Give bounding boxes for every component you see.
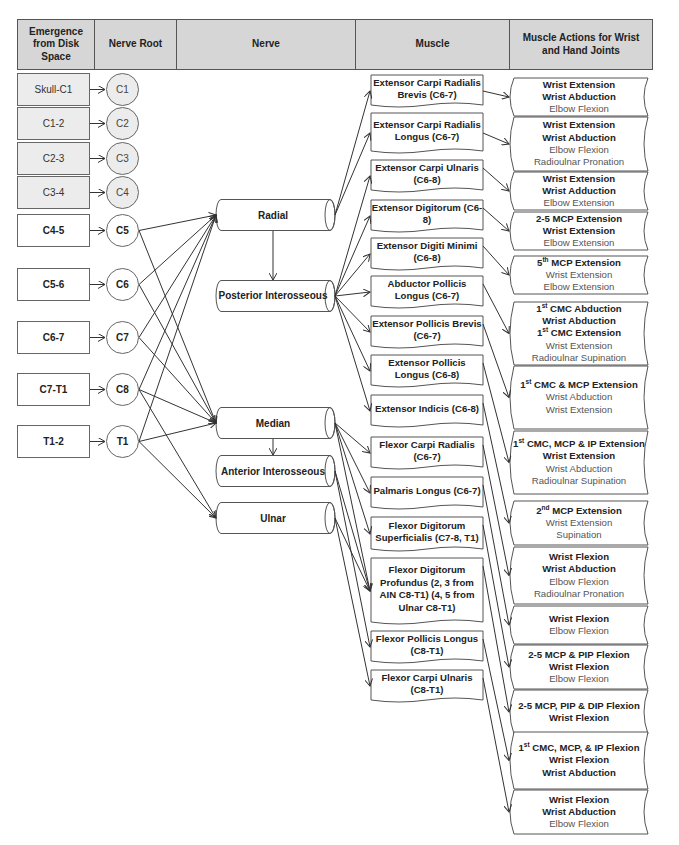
action-line: Wrist Extension bbox=[543, 119, 615, 131]
action-line: Wrist Extension bbox=[543, 79, 615, 91]
action-line: Wrist Extension bbox=[546, 340, 612, 352]
muscle-action-box: Wrist FlexionWrist AbductionElbow Flexio… bbox=[510, 790, 648, 834]
muscle-action-box: 5th MCP ExtensionWrist ExtensionElbow Ex… bbox=[510, 256, 648, 294]
nerve-root-circle: C1 bbox=[106, 73, 139, 106]
action-line: Elbow Flexion bbox=[549, 818, 609, 830]
muscle-box: Flexor Carpi Radialis (C6-7) bbox=[371, 437, 483, 469]
nerve-root-circle: C8 bbox=[106, 373, 139, 406]
segment-box: C2-3 bbox=[17, 142, 90, 175]
nerve-muscle-diagram: Emergence from Disk Space Nerve Root Ner… bbox=[0, 0, 679, 845]
action-line: Wrist Abduction bbox=[542, 767, 616, 779]
nerve-posterior-interosseous: Posterior Interosseous bbox=[216, 280, 330, 311]
action-line: Wrist Flexion bbox=[549, 794, 609, 806]
nerve-root-circle: C5 bbox=[106, 214, 139, 247]
muscle-box: Extensor Pollicis Brevis (C6-7) bbox=[371, 316, 483, 348]
muscle-box: Flexor Pollicis Longus (C8-T1) bbox=[371, 631, 483, 663]
muscle-box: Extensor Carpi Ulnaris (C6-8) bbox=[371, 160, 483, 192]
muscle-box: Flexor Digitorum Superficialis (C7-8, T1… bbox=[371, 517, 483, 551]
muscle-box: Extensor Digiti Minimi (C6-8) bbox=[371, 238, 483, 270]
muscle-box: Extensor Digitorum (C6-8) bbox=[371, 200, 483, 232]
action-line: Wrist Abduction bbox=[546, 391, 612, 403]
muscle-box: Extensor Carpi Radialis Longus (C6-7) bbox=[371, 113, 483, 153]
nerve-root-circle: T1 bbox=[106, 425, 139, 458]
action-line: Elbow Flexion bbox=[549, 103, 609, 115]
header-muscle-actions: Muscle Actions for Wrist and Hand Joints bbox=[509, 19, 653, 70]
nerve-root-circle: C3 bbox=[106, 142, 139, 175]
action-line: Elbow Extension bbox=[544, 197, 615, 209]
action-line: Radioulnar Supination bbox=[532, 475, 626, 487]
muscle-action-box: 1st CMC & MCP ExtensionWrist AbductionWr… bbox=[510, 366, 648, 429]
action-line: Elbow Extension bbox=[544, 281, 615, 293]
segment-box: C3-4 bbox=[17, 176, 90, 209]
action-line: Wrist Extension bbox=[546, 269, 612, 281]
action-line: Wrist Abduction bbox=[542, 806, 616, 818]
header-emergence: Emergence from Disk Space bbox=[17, 19, 95, 70]
muscle-action-box: 1st CMC, MCP, & IP FlexionWrist FlexionW… bbox=[510, 732, 648, 789]
muscle-box: Abductor Pollicis Longus (C6-7) bbox=[371, 276, 483, 308]
action-line: Wrist Flexion bbox=[549, 613, 609, 625]
muscle-action-box: Wrist FlexionElbow Flexion bbox=[510, 606, 648, 644]
segment-box: C7-T1 bbox=[17, 373, 90, 406]
action-line: 2-5 MCP & PIP Flexion bbox=[528, 649, 629, 661]
segment-box: T1-2 bbox=[17, 425, 90, 458]
action-line: Wrist Flexion bbox=[549, 712, 609, 724]
muscle-box: Extensor Pollicis Longus (C6-8) bbox=[371, 355, 483, 387]
nerve-median: Median bbox=[216, 408, 330, 439]
action-line: Wrist Flexion bbox=[549, 754, 609, 766]
muscle-box: Extensor Carpi Radialis Brevis (C6-7) bbox=[371, 75, 483, 107]
action-line: Wrist Adduction bbox=[542, 185, 616, 197]
muscle-box: Flexor Carpi Ulnaris (C8-T1) bbox=[371, 670, 483, 702]
nerve-anterior-interosseous: Anterior Interosseous bbox=[216, 456, 330, 487]
segment-box: C1-2 bbox=[17, 107, 90, 140]
muscle-box: Flexor Digitorum Profundus (2, 3 from AI… bbox=[371, 558, 483, 624]
action-line: Wrist Extension bbox=[543, 450, 615, 462]
nerve-root-circle: C6 bbox=[106, 268, 139, 301]
action-line: Elbow Extension bbox=[544, 237, 615, 249]
action-line: Wrist Abduction bbox=[542, 132, 616, 144]
action-line: Elbow Flexion bbox=[549, 576, 609, 588]
action-line: Wrist Extension bbox=[546, 517, 612, 529]
action-line: Wrist Flexion bbox=[549, 661, 609, 673]
muscle-action-box: 2-5 MCP & PIP FlexionWrist FlexionElbow … bbox=[510, 645, 648, 689]
muscle-box: Extensor Indicis (C6-8) bbox=[371, 395, 483, 427]
action-line: Supination bbox=[556, 529, 601, 541]
action-line: 1st CMC & MCP Extension bbox=[520, 379, 638, 391]
action-line: Radioulnar Pronation bbox=[534, 156, 624, 168]
nerve-radial: Radial bbox=[216, 200, 330, 231]
header-nerve-root: Nerve Root bbox=[94, 19, 177, 70]
header-nerve: Nerve bbox=[176, 19, 356, 70]
action-line: Elbow Flexion bbox=[549, 673, 609, 685]
action-line: 1st CMC, MCP & IP Extension bbox=[513, 438, 645, 450]
action-line: Wrist Abduction bbox=[542, 91, 616, 103]
action-line: Elbow Flexion bbox=[549, 625, 609, 637]
action-line: Wrist Abduction bbox=[542, 315, 616, 327]
action-line: 2-5 MCP, PIP & DIP Flexion bbox=[518, 700, 640, 712]
muscle-action-box: Wrist ExtensionWrist AbductionElbow Flex… bbox=[510, 117, 648, 171]
action-line: Wrist Extension bbox=[546, 404, 612, 416]
muscle-action-box: 1st CMC AbductionWrist Abduction1st CMC … bbox=[510, 302, 648, 365]
muscle-action-box: 2nd MCP ExtensionWrist ExtensionSupinati… bbox=[510, 501, 648, 545]
action-line: Elbow Flexion bbox=[549, 144, 609, 156]
action-line: Wrist Extension bbox=[543, 173, 615, 185]
action-line: Wrist Flexion bbox=[549, 551, 609, 563]
segment-box: Skull-C1 bbox=[17, 73, 90, 106]
muscle-action-box: Wrist ExtensionWrist AdductionElbow Exte… bbox=[510, 172, 648, 210]
action-line: Wrist Abduction bbox=[542, 563, 616, 575]
action-line: Radioulnar Pronation bbox=[534, 588, 624, 600]
muscle-action-box: Wrist FlexionWrist AbductionElbow Flexio… bbox=[510, 547, 648, 604]
muscle-action-box: 2-5 MCP ExtensionWrist ExtensionElbow Ex… bbox=[510, 212, 648, 250]
action-line: 1st CMC Abduction bbox=[536, 303, 621, 315]
header-muscle: Muscle bbox=[355, 19, 510, 70]
action-line: 5th MCP Extension bbox=[537, 257, 621, 269]
muscle-action-box: 1st CMC, MCP & IP ExtensionWrist Extensi… bbox=[510, 431, 648, 494]
segment-box: C5-6 bbox=[17, 268, 90, 301]
action-line: Wrist Extension bbox=[543, 225, 615, 237]
action-line: Wrist Abduction bbox=[546, 463, 612, 475]
nerve-root-circle: C4 bbox=[106, 176, 139, 209]
muscle-action-box: Wrist ExtensionWrist AbductionElbow Flex… bbox=[510, 78, 648, 116]
nerve-ulnar: Ulnar bbox=[216, 503, 330, 534]
action-line: Radioulnar Supination bbox=[532, 352, 626, 364]
segment-box: C6-7 bbox=[17, 321, 90, 354]
action-line: 2nd MCP Extension bbox=[536, 505, 622, 517]
muscle-action-box: 2-5 MCP, PIP & DIP FlexionWrist Flexion bbox=[510, 690, 648, 734]
